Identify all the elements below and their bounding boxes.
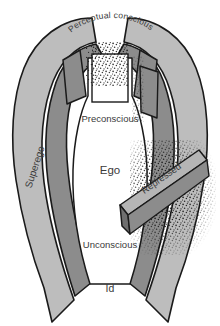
label-ego: Ego [100,164,120,176]
label-id: Id [106,282,115,294]
label-unconscious: Unconscious [83,239,138,250]
label-preconscious: Preconscious [81,113,138,124]
psyche-diagram: Perceptual conscious Preconscious Ego Su… [0,0,220,326]
stipple-throat-left [86,44,96,84]
stipple-top-opening [92,42,128,86]
psyche-diagram-svg: Perceptual conscious Preconscious Ego Su… [0,0,220,326]
